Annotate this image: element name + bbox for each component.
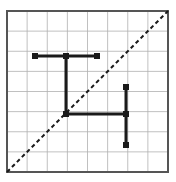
figure-container — [0, 0, 176, 182]
dot-upper-right — [94, 53, 100, 59]
dot-corner-junction — [63, 111, 69, 117]
dot-upper-left — [32, 53, 38, 59]
dot-upper-mid — [63, 53, 69, 59]
dot-right-top — [123, 84, 129, 90]
grid-figure — [0, 0, 176, 182]
dot-right-bottom — [123, 142, 129, 148]
dot-right-junction — [123, 111, 129, 117]
